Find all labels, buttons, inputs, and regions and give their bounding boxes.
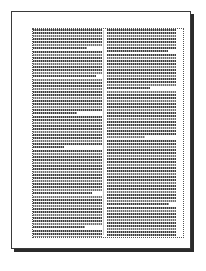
text-line [107, 50, 168, 52]
text-line [107, 234, 176, 236]
text-paragraph [33, 79, 102, 114]
text-line [107, 203, 169, 205]
text-line [107, 97, 176, 99]
text-paragraph [107, 140, 176, 205]
text-line [33, 189, 102, 191]
text-line [107, 149, 176, 151]
text-line [33, 162, 102, 164]
text-line [33, 183, 102, 185]
text-paragraph [33, 51, 102, 77]
text-line [33, 233, 102, 235]
text-line [107, 118, 176, 120]
text-line [33, 119, 102, 121]
text-line [107, 115, 176, 117]
text-paragraph [33, 196, 102, 228]
text-line [107, 109, 176, 111]
columns-container [33, 29, 183, 237]
text-line [107, 47, 176, 49]
text-line [107, 216, 176, 218]
text-line [107, 133, 176, 135]
text-line [107, 84, 176, 86]
text-line [107, 176, 176, 178]
text-line [107, 87, 150, 89]
text-line [33, 88, 102, 90]
text-line [107, 78, 176, 80]
text-line [33, 168, 102, 170]
text-line [33, 199, 102, 201]
text-line [107, 182, 176, 184]
text-line [33, 150, 102, 152]
text-line [33, 128, 102, 130]
text-paragraph [33, 116, 102, 148]
text-line [107, 228, 176, 230]
text-line [33, 72, 102, 74]
text-line [33, 54, 102, 56]
text-line [33, 60, 102, 62]
text-line [33, 171, 102, 173]
page-sheet[interactable] [11, 11, 191, 249]
text-line [33, 122, 102, 124]
text-line [107, 173, 176, 175]
text-line [33, 230, 102, 232]
text-line [107, 231, 176, 233]
text-line [33, 196, 102, 198]
text-line [107, 63, 176, 65]
text-line [107, 170, 176, 172]
text-line [107, 152, 176, 154]
text-line [107, 130, 176, 132]
text-line [107, 140, 176, 142]
text-line [107, 81, 176, 83]
text-line [33, 143, 102, 145]
text-paragraph [107, 207, 176, 237]
text-line [33, 226, 85, 228]
text-line [33, 180, 102, 182]
text-line [33, 192, 92, 194]
text-line [33, 41, 102, 43]
text-line [33, 153, 102, 155]
text-line [33, 51, 102, 53]
text-line [33, 116, 102, 118]
text-line [33, 109, 102, 111]
text-line [33, 91, 102, 93]
text-line [107, 94, 176, 96]
text-line [107, 207, 176, 209]
text-paragraph [33, 230, 102, 237]
left-text-column[interactable] [33, 29, 102, 237]
text-line [107, 197, 176, 199]
text-paragraph [33, 150, 102, 194]
text-line [33, 63, 102, 65]
right-text-column[interactable] [107, 29, 176, 237]
text-line [33, 38, 102, 40]
text-line [107, 155, 176, 157]
text-line [33, 131, 102, 133]
text-line [33, 100, 102, 102]
text-line [107, 54, 176, 56]
text-line [33, 177, 102, 179]
text-line [33, 146, 64, 148]
text-line [33, 97, 102, 99]
text-line [33, 79, 102, 81]
text-paragraph [107, 91, 176, 138]
text-line [33, 32, 102, 34]
text-line [107, 164, 176, 166]
text-line [33, 112, 77, 114]
text-line [33, 156, 102, 158]
text-line [107, 200, 176, 202]
text-line [33, 223, 102, 225]
text-line [33, 186, 102, 188]
text-line [33, 75, 96, 77]
text-line [33, 159, 102, 161]
text-line [107, 222, 176, 224]
text-line [107, 29, 176, 31]
text-line [33, 66, 102, 68]
text-line [33, 205, 102, 207]
text-line [107, 57, 176, 59]
text-line [33, 134, 102, 136]
text-line [33, 211, 102, 213]
text-line [107, 75, 176, 77]
text-line [107, 44, 176, 46]
text-line [107, 103, 176, 105]
text-line [107, 60, 176, 62]
text-line [33, 106, 102, 108]
text-line [33, 236, 102, 237]
